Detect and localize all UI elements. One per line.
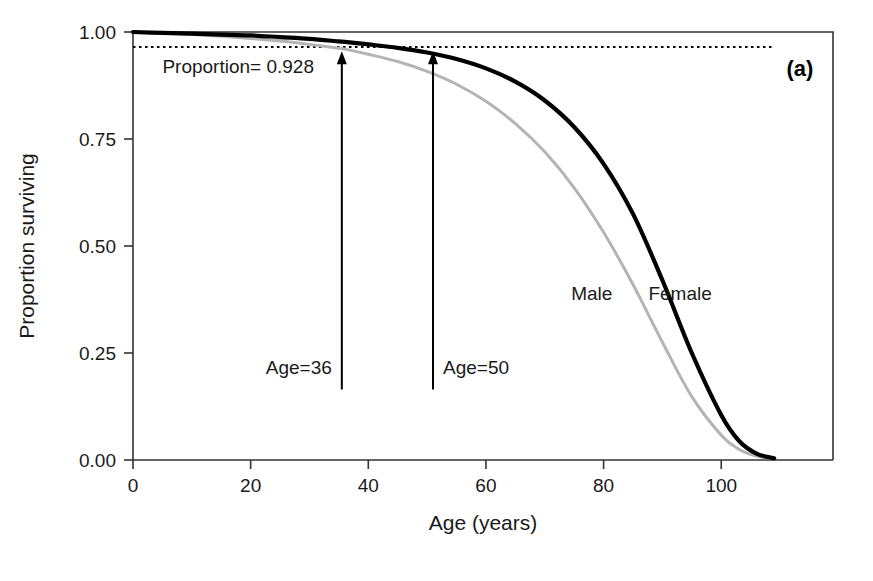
frame-border xyxy=(133,32,833,460)
y-axis-title: Proportion surviving xyxy=(15,153,38,339)
figure-panel: 020406080100 0.000.250.500.751.00 Propor… xyxy=(0,0,873,581)
x-tick-label: 80 xyxy=(593,475,614,496)
age-36-label: Age=36 xyxy=(266,357,332,378)
series-label-female: Female xyxy=(648,283,711,304)
panel-label: (a) xyxy=(787,56,814,81)
annotation-arrows xyxy=(337,51,438,389)
data-curves xyxy=(133,32,774,459)
proportion-value-label: Proportion= 0.928 xyxy=(162,56,314,77)
age-36-arrow-head xyxy=(337,51,347,64)
y-tick-label: 1.00 xyxy=(79,22,116,43)
age-50-label: Age=50 xyxy=(443,357,509,378)
y-tick-label: 0.75 xyxy=(79,129,116,150)
x-tick-label: 40 xyxy=(358,475,379,496)
plot-frame xyxy=(133,32,833,460)
x-axis-title: Age (years) xyxy=(429,511,538,534)
x-tick-label: 0 xyxy=(128,475,139,496)
y-tick-label: 0.00 xyxy=(79,450,116,471)
y-tick-label: 0.50 xyxy=(79,236,116,257)
curve-female xyxy=(133,32,774,458)
x-tick-label: 100 xyxy=(705,475,737,496)
survival-curve-chart: 020406080100 0.000.250.500.751.00 Propor… xyxy=(0,0,873,581)
y-tick-label: 0.25 xyxy=(79,343,116,364)
x-tick-label: 20 xyxy=(240,475,261,496)
curve-male xyxy=(133,32,774,459)
y-axis-ticks: 0.000.250.500.751.00 xyxy=(79,22,133,471)
series-label-male: Male xyxy=(571,283,612,304)
x-axis-ticks: 020406080100 xyxy=(128,460,737,496)
annotation-labels: Proportion= 0.928Age=36Age=50 xyxy=(162,56,509,379)
x-tick-label: 60 xyxy=(475,475,496,496)
